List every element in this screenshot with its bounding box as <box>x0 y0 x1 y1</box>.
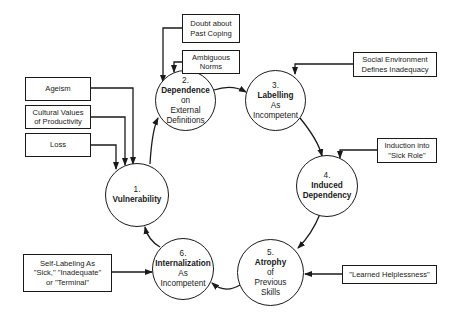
stage-3-labelling: 3. Labelling As Incompetent <box>245 70 306 131</box>
stage-subtitle: of Previous Skills <box>255 268 287 298</box>
stage-subtitle: As Incompetent <box>160 269 205 289</box>
stage-title: Vulnerability <box>113 195 162 205</box>
stage-2-dependence: 2. Dependence on External Definitions <box>155 70 216 131</box>
input-cultural-values: Cultural Values of Productivity <box>25 105 91 129</box>
stage-number: 5. <box>267 248 274 258</box>
stage-number: 1. <box>134 185 141 195</box>
stage-6-internalization: 6. Internalization As Incompetent <box>152 238 214 300</box>
input-ambiguous-norms: Ambiguous Norms <box>182 50 240 74</box>
input-learned-helplessness: "Learned Helplessness" <box>342 265 437 284</box>
stage-1-vulnerability: 1. Vulnerability <box>105 163 169 227</box>
stage-title: Labelling <box>258 91 294 101</box>
stage-subtitle: on External Definitions <box>166 96 204 126</box>
stage-title: Induced Dependency <box>303 181 352 201</box>
input-self-labeling: Self-Labeling As "Sick," "Inadequate" or… <box>23 254 112 292</box>
stage-5-atrophy: 5. Atrophy of Previous Skills <box>237 239 304 306</box>
stage-4-induced-dependency: 4. Induced Dependency <box>296 155 358 217</box>
stage-title: Dependence <box>161 86 210 96</box>
stage-number: 6. <box>180 249 187 259</box>
input-induction-sick-role: Induction into "Sick Role" <box>377 138 437 163</box>
stage-number: 4. <box>324 171 331 181</box>
input-doubt-past-coping: Doubt about Past Coping <box>182 14 240 43</box>
stage-number: 3. <box>272 81 279 91</box>
input-social-environment: Social Environment Defines Inadequacy <box>353 52 437 77</box>
input-ageism: Ageism <box>25 77 91 101</box>
input-loss: Loss <box>25 133 91 157</box>
stage-number: 2. <box>182 76 189 86</box>
stage-subtitle: As Incompetent <box>253 101 298 121</box>
stage-title: Atrophy <box>255 258 286 268</box>
stage-title: Internalization <box>155 259 211 269</box>
